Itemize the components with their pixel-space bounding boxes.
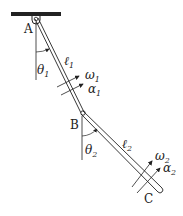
ceiling [11, 12, 61, 16]
label-alpha2: α2 [163, 161, 176, 177]
omega1-arrow [57, 76, 79, 87]
label-l2: ℓ2 [122, 137, 132, 153]
label-b: B [70, 118, 79, 132]
label-alpha1: α1 [88, 82, 101, 98]
angle-arc-theta2 [82, 129, 97, 136]
double-pendulum-diagram: A B C θ1 ℓ1 ω1 α1 θ2 ℓ2 ω2 α2 [0, 0, 183, 216]
label-theta1: θ1 [37, 63, 49, 79]
label-l1: ℓ1 [64, 54, 74, 70]
alpha1-arrow [61, 84, 83, 95]
alpha2-arrow [137, 168, 160, 193]
label-a: A [23, 22, 33, 36]
label-c: C [144, 192, 153, 206]
label-theta2: θ2 [85, 143, 97, 159]
angle-arc-theta1 [36, 49, 49, 52]
